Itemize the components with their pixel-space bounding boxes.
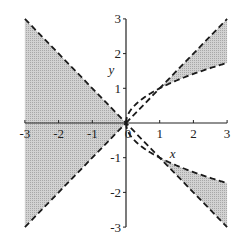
x-axis-label: x xyxy=(169,146,176,161)
x-tick-label: 1 xyxy=(156,126,163,141)
y-tick-label: -3 xyxy=(110,220,121,235)
x-tick-label: -2 xyxy=(53,126,64,141)
region-plot: -3-2-10123321-1-2-3xy xyxy=(0,0,250,242)
y-tick-label: 1 xyxy=(115,81,122,96)
x-tick-label: -1 xyxy=(87,126,98,141)
x-tick-label: 2 xyxy=(190,126,197,141)
x-tick-label: -3 xyxy=(19,126,30,141)
x-tick-label: 0 xyxy=(125,126,132,141)
y-tick-label: -1 xyxy=(110,150,121,165)
y-axis-label: y xyxy=(106,62,114,77)
y-tick-label: 2 xyxy=(115,46,122,61)
y-tick-label: 3 xyxy=(115,11,122,26)
y-tick-label: -2 xyxy=(110,185,121,200)
x-tick-label: 3 xyxy=(224,126,231,141)
